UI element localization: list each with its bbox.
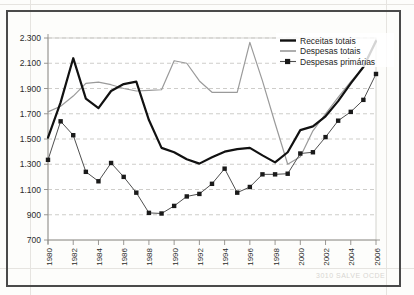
data-point-marker bbox=[147, 211, 151, 215]
chart-canvas: 2.300 2.100 1.900 1.700 1.500 1.300 1.10… bbox=[0, 0, 414, 295]
x-axis-tick-labels: 1980 1982 1984 1986 1988 1990 1992 1994 … bbox=[45, 247, 382, 265]
data-point-marker bbox=[197, 192, 201, 196]
data-point-marker bbox=[323, 135, 327, 139]
data-point-marker bbox=[46, 158, 50, 162]
legend-label-despesas-totais: Despesas totais bbox=[300, 46, 360, 56]
data-point-marker bbox=[336, 118, 340, 122]
x-tick-label: 2002 bbox=[322, 247, 331, 265]
data-point-marker bbox=[235, 190, 239, 194]
legend-label-receitas-totais: Receitas totais bbox=[300, 36, 356, 46]
y-tick-label: 1.500 bbox=[20, 134, 42, 144]
scanned-page: 3010 SALVE OCDE bbox=[0, 0, 414, 295]
y-tick-label: 1.900 bbox=[20, 84, 42, 94]
x-tick-label: 2004 bbox=[347, 247, 356, 265]
legend-marker-despesas-primarias bbox=[285, 59, 290, 64]
data-point-marker bbox=[349, 110, 353, 114]
data-point-marker bbox=[361, 98, 365, 102]
x-tick-label: 1998 bbox=[272, 247, 281, 265]
x-tick-label: 2006 bbox=[373, 247, 382, 265]
data-point-marker bbox=[134, 190, 138, 194]
x-tick-label: 1994 bbox=[221, 247, 230, 265]
y-tick-label: 1.700 bbox=[20, 109, 42, 119]
data-point-marker bbox=[285, 172, 289, 176]
data-point-marker bbox=[121, 175, 125, 179]
x-tick-label: 1992 bbox=[196, 247, 205, 265]
y-tick-label: 700 bbox=[27, 235, 41, 245]
data-point-marker bbox=[260, 172, 264, 176]
chart-legend: Receitas totais Despesas totais Despesas… bbox=[276, 33, 394, 67]
y-axis bbox=[44, 34, 48, 244]
x-tick-label: 1980 bbox=[45, 247, 54, 265]
data-point-marker bbox=[58, 119, 62, 123]
legend-label-despesas-primarias: Despesas primárias bbox=[300, 57, 375, 67]
data-point-marker bbox=[374, 72, 378, 76]
data-point-marker bbox=[71, 133, 75, 137]
data-point-marker bbox=[159, 211, 163, 215]
data-point-marker bbox=[172, 204, 176, 208]
y-tick-label: 900 bbox=[27, 210, 41, 220]
data-point-marker bbox=[185, 194, 189, 198]
y-tick-label: 2.300 bbox=[20, 33, 42, 43]
data-point-marker bbox=[84, 170, 88, 174]
line-chart-svg: 2.300 2.100 1.900 1.700 1.500 1.300 1.10… bbox=[0, 0, 414, 295]
y-tick-label: 1.300 bbox=[20, 159, 42, 169]
y-axis-tick-labels: 2.300 2.100 1.900 1.700 1.500 1.300 1.10… bbox=[20, 33, 42, 245]
data-point-marker bbox=[311, 150, 315, 154]
data-point-marker bbox=[222, 166, 226, 170]
y-tick-label: 1.100 bbox=[20, 185, 42, 195]
data-point-marker bbox=[109, 161, 113, 165]
y-tick-label: 2.100 bbox=[20, 58, 42, 68]
x-tick-label: 2000 bbox=[297, 247, 306, 265]
data-point-marker bbox=[96, 179, 100, 183]
x-tick-label: 1990 bbox=[171, 247, 180, 265]
data-point-marker bbox=[248, 185, 252, 189]
x-tick-label: 1986 bbox=[120, 247, 129, 265]
x-axis bbox=[48, 240, 380, 245]
data-point-marker bbox=[273, 172, 277, 176]
x-tick-label: 1988 bbox=[145, 247, 154, 265]
x-tick-label: 1984 bbox=[95, 247, 104, 265]
data-point-marker bbox=[298, 151, 302, 155]
x-tick-label: 1996 bbox=[246, 247, 255, 265]
x-tick-label: 1982 bbox=[70, 247, 79, 265]
data-point-marker bbox=[210, 182, 214, 186]
